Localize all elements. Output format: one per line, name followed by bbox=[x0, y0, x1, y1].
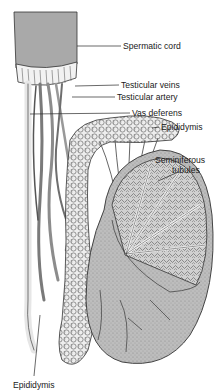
anatomy-illustration bbox=[0, 0, 221, 391]
testis-shape bbox=[86, 150, 213, 363]
label-testicular-veins: Testicular veins bbox=[121, 80, 180, 90]
label-testicular-artery: Testicular artery bbox=[117, 92, 178, 102]
label-vas-deferens: Vas deferens bbox=[132, 108, 182, 118]
spermatic-cord-shape bbox=[14, 12, 77, 86]
label-tubules: tubules bbox=[172, 165, 200, 175]
label-spermatic-cord: Spermatic cord bbox=[123, 41, 181, 51]
label-seminiferous: Seminiferous bbox=[155, 155, 205, 165]
testis-diagram: Spermatic cord Testicular veins Testicul… bbox=[0, 0, 221, 391]
label-epididymis-bottom: Epididymis bbox=[13, 380, 55, 390]
label-epididymis-top: Epididymis bbox=[161, 122, 203, 132]
